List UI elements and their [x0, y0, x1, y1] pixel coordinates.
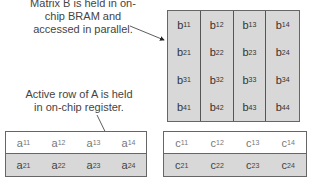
matrix-cell: b14	[266, 11, 299, 39]
matrix-c-row-1: c11c12c13c14	[163, 131, 307, 153]
matrix-cell: c14	[271, 132, 307, 153]
matrix-cell: a22	[41, 154, 76, 176]
matrix-cell: b21	[168, 39, 201, 67]
matrix-cell: b12	[201, 11, 234, 39]
matrix-cell: c11	[164, 132, 200, 153]
matrix-cell: c12	[200, 132, 236, 153]
matrix-cell: a21	[6, 154, 41, 176]
matrix-cell: b11	[168, 11, 201, 39]
matrix-cell: c24	[271, 154, 307, 176]
matrix-b: b11b12b13b14b21b22b23b24b31b32b33b34b41b…	[167, 10, 300, 122]
matrix-cell: a12	[41, 132, 76, 153]
matrix-a-row-2: a21a22a23a24	[5, 153, 147, 177]
matrix-cell: b13	[234, 11, 267, 39]
matrix-cell: b42	[201, 94, 234, 122]
matrix-cell: a11	[6, 132, 41, 153]
matrix-cell: a24	[111, 154, 146, 176]
matrix-cell: c23	[235, 154, 271, 176]
matrix-cell: b43	[234, 94, 267, 122]
matrix-cell: b44	[266, 94, 299, 122]
matrix-cell: a13	[76, 132, 111, 153]
matrix-cell: b24	[266, 39, 299, 67]
matrix-cell: b23	[234, 39, 267, 67]
matrix-a-row-1: a11a12a13a14	[5, 131, 147, 153]
matrix-cell: a14	[111, 132, 146, 153]
matrix-cell: b34	[266, 66, 299, 94]
matrix-cell: c13	[235, 132, 271, 153]
matrix-cell: b31	[168, 66, 201, 94]
matrix-c-row-2: c21c22c23c24	[163, 153, 307, 177]
matrix-cell: c22	[200, 154, 236, 176]
matrix-cell: b41	[168, 94, 201, 122]
matrix-cell: a23	[76, 154, 111, 176]
arrow-to-b	[130, 26, 164, 40]
matrix-cell: c21	[164, 154, 200, 176]
matrix-cell: b22	[201, 39, 234, 67]
matrix-cell: b32	[201, 66, 234, 94]
matrix-cell: b33	[234, 66, 267, 94]
